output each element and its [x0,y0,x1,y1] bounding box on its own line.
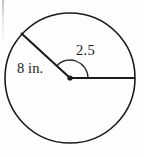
figure-canvas [0,0,144,157]
circle-figure: 8 in. 2.5 [0,0,144,157]
center-dot [67,75,72,80]
radius-length-label: 8 in. [17,61,43,76]
central-angle-label: 2.5 [76,43,95,58]
